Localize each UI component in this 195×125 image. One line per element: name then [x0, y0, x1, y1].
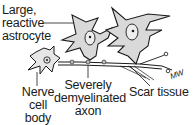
label-line: body: [20, 112, 56, 125]
label-cell-body: Nerve cell body: [20, 86, 56, 125]
label-axon: Severely demyelinated axon: [54, 79, 122, 118]
label-scar-tissue: Scar tissue: [129, 86, 189, 99]
label-line: axon: [54, 105, 122, 118]
label-astrocyte: Large, reactive astrocyte: [2, 4, 51, 43]
label-line: astrocyte: [2, 30, 51, 43]
astrocyte-right: [106, 8, 170, 64]
